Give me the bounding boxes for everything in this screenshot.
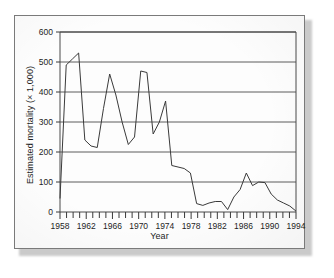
mortality-data-line [60, 53, 296, 211]
y-axis-major-ticks [56, 32, 60, 212]
figure-frame: Estimated mortality (× 1,000) Year 60050… [14, 15, 305, 249]
x-axis-minor-ticks [60, 212, 296, 219]
plot-area [15, 16, 304, 248]
scanned-page: Estimated mortality (× 1,000) Year 60050… [0, 0, 334, 278]
gridlines [60, 32, 296, 182]
mortality-line-chart: Estimated mortality (× 1,000) Year 60050… [15, 16, 304, 248]
